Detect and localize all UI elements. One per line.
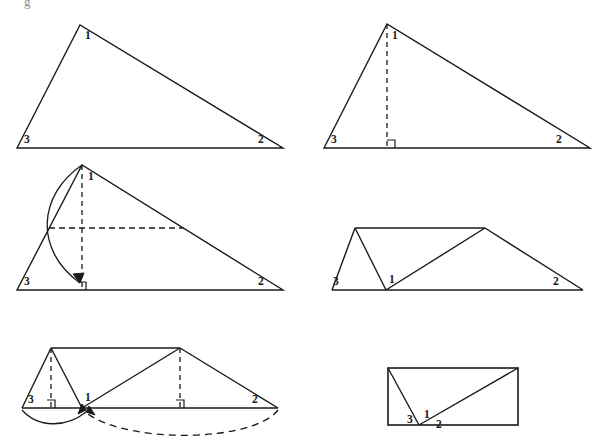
- diagram-canvas: g 1 2 3 1 2 3 1 2 3: [0, 0, 597, 445]
- vertex-label-1: 1: [392, 29, 398, 41]
- figure-parallelogram-altitudes-arcs: 1 2 3: [22, 348, 278, 435]
- figure-triangle-midline-arc: 1 2 3: [17, 165, 283, 290]
- right-slant-edge: [485, 228, 583, 290]
- vertex-label-3: 3: [24, 133, 30, 145]
- vertex-label-3: 3: [28, 393, 34, 405]
- vertex-label-1: 1: [85, 391, 91, 403]
- vertex-label-3: 3: [333, 275, 339, 287]
- figure-triangle-with-altitude: 1 2 3: [324, 24, 590, 148]
- vertex-label-2: 2: [258, 275, 264, 287]
- inner-left-edge: [355, 228, 386, 290]
- vertex-label-2: 2: [258, 133, 264, 145]
- right-slant-edge: [180, 348, 278, 408]
- right-angle-marker: [387, 140, 395, 148]
- right-fold-arc: [88, 410, 278, 435]
- left-slant-edge: [22, 348, 51, 408]
- triangle-outline: [324, 24, 590, 148]
- vertex-label-1: 1: [88, 170, 94, 182]
- left-fold-arc: [22, 410, 86, 424]
- rotation-arc: [47, 165, 82, 283]
- inner-left-edge: [51, 348, 82, 408]
- vertex-label-2: 2: [436, 418, 442, 430]
- vertex-label-2: 2: [553, 275, 559, 287]
- vertex-label-1: 1: [389, 273, 395, 285]
- vertex-label-1: 1: [424, 408, 430, 420]
- vertex-label-1: 1: [85, 29, 91, 41]
- figure-plain-triangle: 1 2 3: [17, 25, 283, 148]
- right-crease-line: [419, 368, 518, 425]
- figure-rearranged-parallelogram: 1 2 3: [332, 228, 583, 290]
- triangle-outline: [17, 25, 283, 148]
- vertex-label-3: 3: [407, 413, 413, 425]
- inner-diagonal-edge: [82, 348, 180, 408]
- geometry-figures-svg: 1 2 3 1 2 3 1 2 3: [0, 0, 597, 445]
- inner-diagonal-edge: [386, 228, 485, 290]
- vertex-label-3: 3: [331, 133, 337, 145]
- vertex-label-2: 2: [556, 133, 562, 145]
- vertex-label-3: 3: [24, 275, 30, 287]
- vertex-label-2: 2: [252, 393, 258, 405]
- left-crease-line: [388, 368, 419, 425]
- figure-final-rectangle: 1 2 3: [388, 368, 518, 430]
